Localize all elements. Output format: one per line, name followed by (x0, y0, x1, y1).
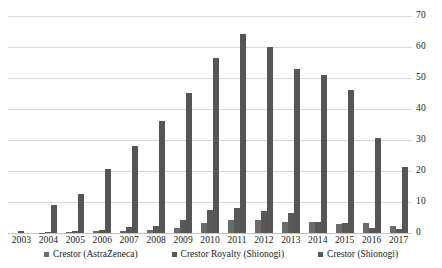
bar-group-2016 (358, 16, 385, 233)
y-tick-label-40: 40 (416, 104, 442, 114)
x-tick-label-2006: 2006 (89, 234, 116, 248)
bar-2012-series-3 (267, 47, 273, 233)
legend-item-3[interactable]: Crestor (Shionogi) (318, 249, 398, 260)
bar-group-2012 (250, 16, 277, 233)
bar-2007-series-3 (132, 146, 138, 233)
y-tick-label-70: 70 (416, 11, 442, 21)
y-tick-label-10: 10 (416, 197, 442, 207)
bar-2008-series-3 (159, 121, 165, 233)
legend-label: Crestor (Shionogi) (327, 249, 398, 260)
x-tick-label-2005: 2005 (62, 234, 89, 248)
y-tick-label-60: 60 (416, 42, 442, 52)
x-tick-label-2010: 2010 (197, 234, 224, 248)
bar-2013-series-3 (294, 69, 300, 233)
bar-2017-series-3 (402, 167, 408, 233)
y-tick-label-0: 0 (416, 228, 442, 238)
bar-group-2015 (331, 16, 358, 233)
bar-2004-series-3 (51, 205, 57, 233)
bar-group-2005 (62, 16, 89, 233)
bar-group-2009 (170, 16, 197, 233)
bar-group-2004 (35, 16, 62, 233)
bar-2005-series-3 (78, 194, 84, 233)
bar-group-2017 (385, 16, 412, 233)
legend-swatch-icon (318, 252, 323, 257)
x-tick-label-2015: 2015 (331, 234, 358, 248)
x-tick-label-2011: 2011 (224, 234, 251, 248)
legend-label: Crestor (AstraZeneca) (53, 249, 138, 260)
bar-2015-series-3 (348, 90, 354, 233)
bar-group-2006 (89, 16, 116, 233)
x-tick-label-2003: 2003 (8, 234, 35, 248)
x-tick-label-2004: 2004 (35, 234, 62, 248)
plot-area (8, 16, 412, 233)
legend-item-2[interactable]: Crestor Royalty (Shionogi) (172, 249, 284, 260)
bar-group-2008 (143, 16, 170, 233)
legend-item-1[interactable]: Crestor (AstraZeneca) (44, 249, 138, 260)
x-tick-label-2016: 2016 (358, 234, 385, 248)
x-tick-label-2012: 2012 (250, 234, 277, 248)
x-axis-tick-labels: 2003200420052006200720082009201020112012… (8, 234, 412, 248)
bar-2006-series-3 (105, 169, 111, 233)
bar-group-2003 (8, 16, 35, 233)
x-tick-label-2008: 2008 (143, 234, 170, 248)
chart-legend: Crestor (AstraZeneca)Crestor Royalty (Sh… (0, 249, 442, 260)
bars-layer (8, 16, 412, 233)
y-tick-label-30: 30 (416, 135, 442, 145)
y-tick-label-50: 50 (416, 73, 442, 83)
bar-group-2011 (224, 16, 251, 233)
y-tick-label-20: 20 (416, 166, 442, 176)
legend-swatch-icon (44, 252, 49, 257)
bar-group-2010 (197, 16, 224, 233)
x-tick-label-2014: 2014 (304, 234, 331, 248)
bar-group-2014 (304, 16, 331, 233)
legend-swatch-icon (172, 252, 177, 257)
bar-2014-series-3 (321, 75, 327, 233)
bar-2003-series-2 (18, 231, 24, 233)
x-tick-label-2009: 2009 (170, 234, 197, 248)
bar-2016-series-3 (375, 138, 381, 233)
bar-group-2013 (277, 16, 304, 233)
bar-group-2007 (116, 16, 143, 233)
x-tick-label-2017: 2017 (385, 234, 412, 248)
bar-2010-series-3 (213, 58, 219, 233)
x-tick-label-2013: 2013 (277, 234, 304, 248)
x-tick-label-2007: 2007 (116, 234, 143, 248)
bar-chart: 706050403020100 200320042005200620072008… (0, 0, 442, 268)
legend-label: Crestor Royalty (Shionogi) (181, 249, 284, 260)
bar-2009-series-3 (186, 93, 192, 233)
bar-2011-series-3 (240, 34, 246, 233)
